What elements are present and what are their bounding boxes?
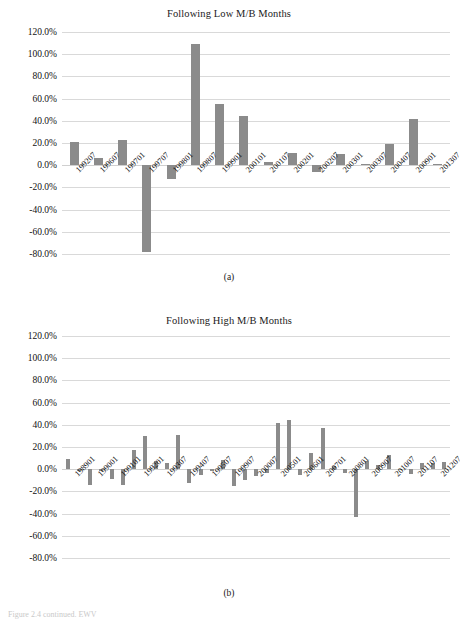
panel-caption-a: (a)	[0, 272, 458, 282]
bar	[191, 44, 200, 165]
bar	[88, 469, 92, 485]
gridline	[62, 536, 450, 537]
gridline	[62, 54, 450, 55]
bar	[143, 436, 147, 469]
y-axis-tick-label: -20.0%	[29, 182, 57, 192]
y-axis-tick-label: 20.0%	[32, 138, 57, 148]
x-axis-tick-label: 199001	[96, 455, 120, 479]
panel-caption-b: (b)	[0, 588, 458, 598]
y-axis-tick-label: 40.0%	[32, 420, 57, 430]
y-axis-tick-label: 120.0%	[28, 27, 57, 37]
gridline	[62, 32, 450, 33]
gridline	[62, 76, 450, 77]
y-axis-tick-label: 0.0%	[37, 464, 57, 474]
plot-area-a: 120.0%100.0%80.0%60.0%40.0%20.0%0.0%-20.…	[0, 0, 458, 270]
y-axis-tick-label: 100.0%	[28, 353, 57, 363]
y-axis-tick-label: -60.0%	[29, 227, 57, 237]
gridline	[62, 380, 450, 381]
y-axis-tick-label: 60.0%	[32, 94, 57, 104]
gridline	[62, 558, 450, 559]
x-axis-tick-label: 199101	[119, 455, 143, 479]
y-axis-tick-label: 80.0%	[32, 71, 57, 81]
y-axis-tick-label: 0.0%	[37, 160, 57, 170]
x-axis-tick-label: 199507	[210, 455, 234, 479]
bar	[110, 469, 114, 479]
y-axis-tick-label: -20.0%	[29, 486, 57, 496]
y-axis-tick-label: 80.0%	[32, 375, 57, 385]
gridline	[62, 121, 450, 122]
gridline	[62, 491, 450, 492]
gridline	[62, 403, 450, 404]
plot-area-b: 120.0%100.0%80.0%60.0%40.0%20.0%0.0%-20.…	[0, 310, 458, 580]
chart-panel-b: Following High M/B Months 120.0%100.0%80…	[0, 310, 458, 620]
y-axis-tick-label: 40.0%	[32, 116, 57, 126]
x-axis-tick-label: 198901	[73, 455, 97, 479]
gridline	[62, 358, 450, 359]
y-axis-tick-label: -80.0%	[29, 249, 57, 259]
y-axis-tick-label: -80.0%	[29, 553, 57, 563]
gridline	[62, 514, 450, 515]
y-axis-tick-label: 60.0%	[32, 398, 57, 408]
gridline	[62, 210, 450, 211]
gridline	[62, 254, 450, 255]
gridline	[62, 232, 450, 233]
x-axis-tick-label: 201307	[438, 151, 462, 175]
gridline	[62, 447, 450, 448]
bar	[118, 140, 127, 166]
x-axis-tick-label: 201007	[393, 455, 417, 479]
gridline	[62, 425, 450, 426]
y-axis-tick-label: 20.0%	[32, 442, 57, 452]
bar	[70, 142, 79, 165]
bar	[409, 469, 413, 474]
y-axis-tick-label: -60.0%	[29, 531, 57, 541]
chart-panel-a: Following Low M/B Months 120.0%100.0%80.…	[0, 0, 458, 305]
bar	[142, 165, 151, 252]
y-axis-tick-label: 120.0%	[28, 331, 57, 341]
figure-caption: Figure 2.4 continued. EWV	[8, 610, 450, 620]
bar	[66, 459, 70, 470]
y-axis-tick-label: -40.0%	[29, 205, 57, 215]
x-axis-tick-label: 200701	[324, 455, 348, 479]
gridline	[62, 99, 450, 100]
gridline	[62, 336, 450, 337]
y-axis-tick-label: 100.0%	[28, 49, 57, 59]
gridline	[62, 187, 450, 188]
y-axis-tick-label: -40.0%	[29, 509, 57, 519]
